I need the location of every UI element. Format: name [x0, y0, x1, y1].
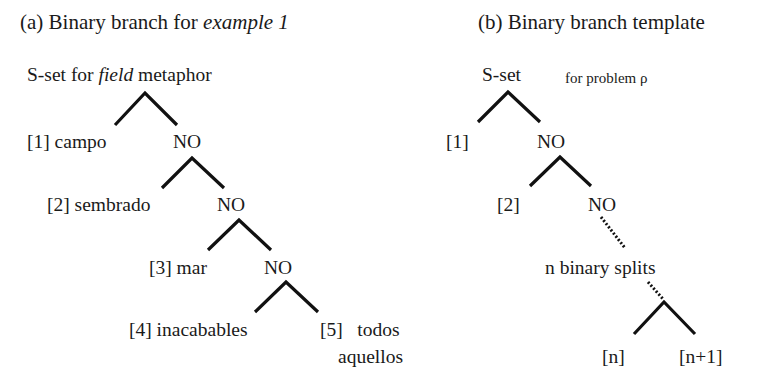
ellipsis-label: n binary splits: [545, 258, 656, 278]
panel-a-title: (a) Binary branch for example 1: [20, 12, 289, 33]
leaf-2: [2] sembrado: [47, 195, 150, 215]
dotted-continuation-2: [648, 282, 663, 299]
dotted-continuation-1: [601, 217, 625, 248]
template-branch-no-1: NO: [537, 132, 565, 152]
branch-b-1: [530, 157, 591, 186]
branch-a-3: [255, 282, 318, 312]
leaf-5: [5] todos: [320, 320, 400, 340]
template-leaf-n: [n]: [602, 347, 625, 367]
branch-no-2: NO: [217, 195, 245, 215]
branch-b-final: [634, 302, 695, 334]
branch-a-1: [162, 158, 224, 188]
template-branch-no-2: NO: [588, 195, 616, 215]
branch-no-3: NO: [264, 258, 292, 278]
branch-a-2: [208, 220, 271, 250]
leaf-1: [1] campo: [27, 132, 107, 152]
branch-no-1: NO: [173, 132, 201, 152]
panel-a-root: S-set for field metaphor: [27, 65, 212, 85]
template-leaf-1: [1]: [446, 132, 469, 152]
branch-a-0: [115, 93, 177, 125]
panel-b-root: S-set: [482, 65, 521, 85]
leaf-5-line2: aquellos: [338, 347, 403, 367]
template-leaf-n-plus-1: [n+1]: [679, 347, 723, 367]
panel-b-root-note: for problem ρ: [565, 71, 647, 86]
leaf-3: [3] mar: [149, 258, 207, 278]
branch-b-0: [478, 92, 540, 122]
leaf-4: [4] inacabables: [129, 320, 248, 340]
template-leaf-2: [2]: [497, 195, 520, 215]
panel-b-title: (b) Binary branch template: [478, 12, 705, 33]
